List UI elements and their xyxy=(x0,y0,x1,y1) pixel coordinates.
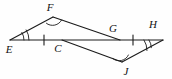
angle-arc-f-icon xyxy=(46,20,61,26)
vertex-label-e: E xyxy=(5,43,13,55)
geometry-canvas: E F G H C J xyxy=(0,0,172,79)
segment-e-f xyxy=(10,17,53,40)
vertex-label-g: G xyxy=(109,22,117,34)
angle-arc-e-outer-icon xyxy=(22,33,24,41)
vertex-label-j: J xyxy=(124,65,130,77)
geometry-figure: E F G H C J xyxy=(0,0,172,79)
vertex-label-h: H xyxy=(148,18,158,30)
vertex-label-f: F xyxy=(46,1,54,13)
segment-j-h xyxy=(122,40,163,62)
angle-arc-e-inner-icon xyxy=(26,30,29,40)
vertex-label-c: C xyxy=(54,42,62,54)
